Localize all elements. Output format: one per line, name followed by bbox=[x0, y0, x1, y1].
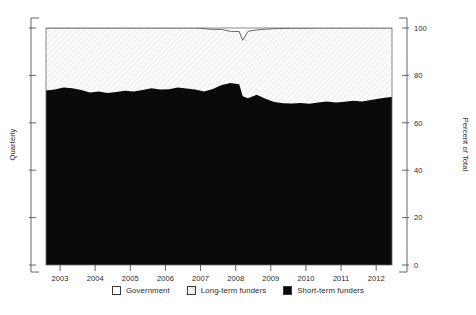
x-tick-label: 2009 bbox=[262, 274, 279, 283]
legend-swatch-government bbox=[112, 286, 121, 295]
left-axis-ticks bbox=[29, 28, 36, 265]
chart-legend: Government Long-term funders Short-term … bbox=[0, 286, 476, 295]
legend-swatch-long-term-funders bbox=[187, 286, 196, 295]
right-axis-tick-labels: 020406080100 bbox=[414, 24, 427, 270]
plot-area: 020406080100 200320042005200620072008200… bbox=[0, 0, 476, 315]
x-axis-ticks bbox=[60, 265, 376, 271]
x-tick-label: 2008 bbox=[227, 274, 244, 283]
area-short-term-funders bbox=[46, 83, 392, 265]
right-tick-label: 40 bbox=[414, 166, 422, 175]
left-axis bbox=[31, 18, 39, 272]
legend-item-short-term-funders[interactable]: Short-term funders bbox=[283, 286, 364, 295]
right-tick-label: 0 bbox=[414, 261, 418, 270]
legend-swatch-short-term-funders bbox=[283, 286, 292, 295]
legend-label-short-term-funders: Short-term funders bbox=[297, 286, 364, 295]
right-axis bbox=[399, 18, 407, 272]
right-tick-label: 80 bbox=[414, 71, 422, 80]
right-tick-label: 100 bbox=[414, 24, 427, 33]
right-tick-label: 60 bbox=[414, 119, 422, 128]
x-tick-label: 2003 bbox=[52, 274, 69, 283]
legend-label-government: Government bbox=[126, 286, 170, 295]
chart-figure: Quarterly Percent of Total bbox=[0, 0, 476, 315]
right-axis-ticks bbox=[402, 28, 409, 265]
x-tick-label: 2010 bbox=[297, 274, 314, 283]
x-tick-label: 2005 bbox=[122, 274, 139, 283]
x-tick-label: 2007 bbox=[192, 274, 209, 283]
x-tick-label: 2004 bbox=[87, 274, 104, 283]
x-tick-label: 2011 bbox=[333, 274, 349, 283]
x-tick-label: 2006 bbox=[157, 274, 174, 283]
x-tick-label: 2012 bbox=[368, 274, 385, 283]
x-axis-tick-labels: 2003200420052006200720082009201020112012 bbox=[52, 274, 385, 283]
right-tick-label: 20 bbox=[414, 213, 422, 222]
legend-label-long-term-funders: Long-term funders bbox=[201, 286, 266, 295]
legend-item-government[interactable]: Government bbox=[112, 286, 170, 295]
legend-item-long-term-funders[interactable]: Long-term funders bbox=[187, 286, 266, 295]
series-layer bbox=[46, 28, 392, 265]
